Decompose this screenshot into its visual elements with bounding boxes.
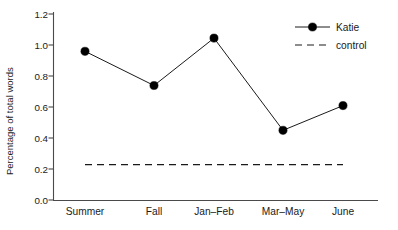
x-tick-label-summer: Summer — [66, 206, 105, 217]
x-tick-label-jan-feb: Jan–Feb — [194, 206, 234, 217]
y-tick-label: 0.0 — [34, 195, 48, 206]
y-axis-label: Percentage of total words — [4, 67, 15, 175]
x-tick-label-mar-may: Mar–May — [262, 206, 305, 217]
legend-marker-katie — [308, 23, 316, 31]
y-tick-label: 0.2 — [34, 164, 48, 175]
data-point-marker — [210, 34, 218, 42]
y-tick-label: 0.6 — [34, 102, 48, 113]
y-tick-label: 0.4 — [34, 133, 48, 144]
legend-entry-katie: Katie — [295, 22, 360, 33]
figure-container: Percentage of total words 1.2 1.0 0.8 0.… — [0, 0, 398, 230]
y-tick-label: 0.8 — [34, 71, 48, 82]
data-point-marker — [339, 102, 347, 110]
data-point-marker — [81, 47, 89, 55]
legend: Katie control — [295, 22, 367, 51]
legend-label-control: control — [336, 40, 367, 51]
x-tick-label-fall: Fall — [146, 206, 162, 217]
y-tick-label: 1.0 — [34, 40, 48, 51]
line-chart: Percentage of total words 1.2 1.0 0.8 0.… — [0, 0, 398, 230]
legend-entry-control: control — [295, 40, 367, 51]
y-tick-label: 1.2 — [34, 9, 48, 20]
x-tick-label-june: June — [332, 206, 354, 217]
series-line-katie — [85, 38, 343, 130]
data-point-marker — [279, 126, 287, 134]
data-point-marker — [150, 81, 158, 89]
legend-label-katie: Katie — [336, 22, 360, 33]
